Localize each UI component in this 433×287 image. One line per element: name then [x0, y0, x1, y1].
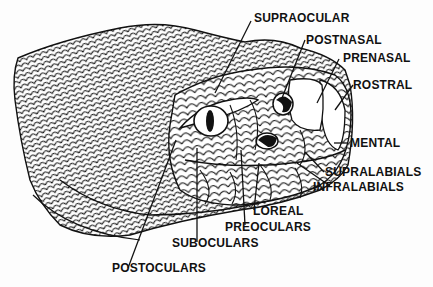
label-mental: MENTAL	[350, 137, 400, 149]
label-postnasal: POSTNASAL	[306, 34, 382, 46]
eye	[194, 106, 228, 136]
loreal-pit	[256, 133, 278, 149]
label-postoculars: POSTOCULARS	[112, 262, 206, 274]
label-preoculars: PREOCULARS	[225, 221, 311, 233]
label-supraocular: SUPRAOCULAR	[254, 12, 350, 24]
label-suboculars: SUBOCULARS	[172, 237, 259, 249]
label-rostral: ROSTRAL	[353, 79, 412, 91]
label-prenasal: PRENASAL	[343, 52, 411, 64]
snake-head-diagram: SUPRAOCULAR POSTNASAL PRENASAL ROSTRAL M…	[0, 0, 433, 287]
label-infralabials: INFRALABIALS	[313, 181, 404, 193]
label-loreal: LOREAL	[253, 205, 304, 217]
label-supralabials: SUPRALABIALS	[325, 166, 421, 178]
